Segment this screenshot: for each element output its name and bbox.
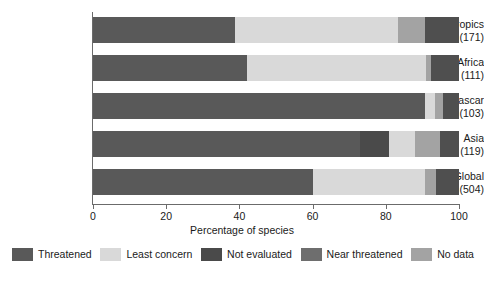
bar-segment bbox=[93, 169, 313, 195]
x-tick-label: 60 bbox=[307, 210, 319, 222]
legend-label: Least concern bbox=[126, 248, 192, 260]
legend-item: No data bbox=[411, 248, 474, 261]
legend-swatch bbox=[100, 248, 121, 261]
legend-item: Least concern bbox=[100, 248, 192, 261]
legend-label: Near threatened bbox=[327, 248, 403, 260]
legend-swatch bbox=[301, 248, 322, 261]
bar-segment bbox=[313, 169, 425, 195]
bar-segment bbox=[93, 17, 235, 43]
bar-row bbox=[93, 93, 459, 119]
bar-segment bbox=[93, 55, 247, 81]
bar-row bbox=[93, 17, 459, 43]
bar-row bbox=[93, 169, 459, 195]
bar-segment bbox=[398, 17, 425, 43]
bar-segment bbox=[235, 17, 398, 43]
legend-label: No data bbox=[437, 248, 474, 260]
bar-row bbox=[93, 131, 459, 157]
legend-item: Not evaluated bbox=[201, 248, 292, 261]
bar-segment bbox=[436, 169, 459, 195]
bar-segment bbox=[425, 17, 459, 43]
legend-item: Near threatened bbox=[301, 248, 403, 261]
bar-segment bbox=[360, 131, 389, 157]
bar-segment bbox=[431, 55, 459, 81]
legend-swatch bbox=[411, 248, 432, 261]
x-tick-label: 40 bbox=[234, 210, 246, 222]
bar-row bbox=[93, 55, 459, 81]
legend-swatch bbox=[12, 248, 33, 261]
chart-legend: ThreatenedLeast concernNot evaluatedNear… bbox=[12, 245, 474, 263]
bar-segment bbox=[435, 93, 443, 119]
x-axis-title: Percentage of species bbox=[0, 224, 484, 236]
bar-segment bbox=[247, 55, 426, 81]
bar-segment bbox=[389, 131, 415, 157]
x-axis-line bbox=[92, 204, 460, 205]
x-tick bbox=[93, 204, 94, 209]
x-tick-label: 20 bbox=[160, 210, 172, 222]
legend-label: Threatened bbox=[38, 248, 92, 260]
x-tick-label: 100 bbox=[450, 210, 468, 222]
bar-segment bbox=[93, 93, 425, 119]
legend-label: Not evaluated bbox=[227, 248, 292, 260]
bar-segment bbox=[93, 131, 360, 157]
x-tick bbox=[239, 204, 240, 209]
category-name: Asia bbox=[464, 132, 484, 144]
x-tick bbox=[386, 204, 387, 209]
legend-item: Threatened bbox=[12, 248, 92, 261]
x-tick-label: 80 bbox=[380, 210, 392, 222]
x-tick-label: 0 bbox=[90, 210, 96, 222]
legend-swatch bbox=[201, 248, 222, 261]
bars-group bbox=[93, 12, 459, 204]
bar-segment bbox=[443, 93, 459, 119]
bar-segment bbox=[440, 131, 459, 157]
bar-segment bbox=[425, 93, 435, 119]
x-tick bbox=[313, 204, 314, 209]
x-tick bbox=[459, 204, 460, 209]
bar-segment bbox=[415, 131, 440, 157]
bar-segment bbox=[425, 169, 436, 195]
stacked-bar-chart: Neotropics(171)Mainland Africa(111)Madag… bbox=[0, 0, 484, 282]
x-tick bbox=[166, 204, 167, 209]
